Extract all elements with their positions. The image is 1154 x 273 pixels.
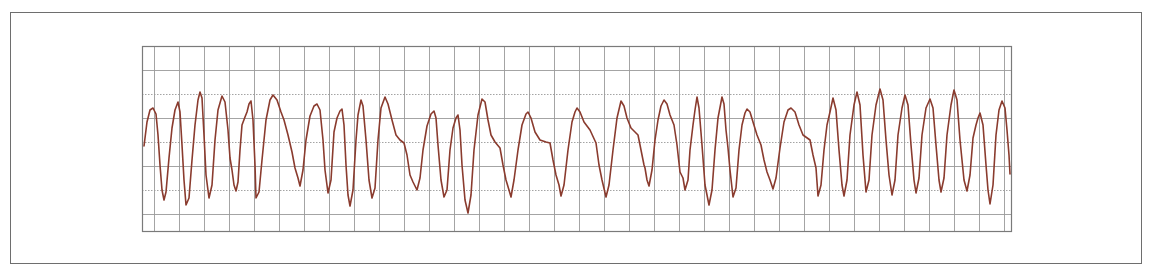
plot-border <box>143 47 1012 232</box>
grid-paper <box>142 46 1011 231</box>
ecg-trace <box>144 89 1010 213</box>
ecg-chart <box>0 0 1154 273</box>
